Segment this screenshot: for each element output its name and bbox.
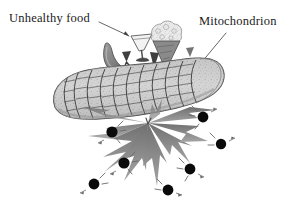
food-cocktail-glass	[131, 34, 152, 61]
free-radical-particle	[208, 133, 235, 149]
arrow-food-to-mitochondrion-right	[186, 47, 194, 57]
illustration-svg	[0, 0, 296, 207]
label-mitochondrion: Mitochondrion	[199, 15, 277, 28]
label-unhealthy-food: Unhealthy food	[9, 12, 90, 25]
leader-line-unhealthy-food	[99, 22, 129, 36]
free-radical-particle	[177, 158, 204, 181]
free-radical-particle	[80, 173, 108, 195]
free-radical-particle	[155, 179, 182, 197]
figure-canvas: Unhealthy food Mitochondrion	[0, 0, 296, 207]
